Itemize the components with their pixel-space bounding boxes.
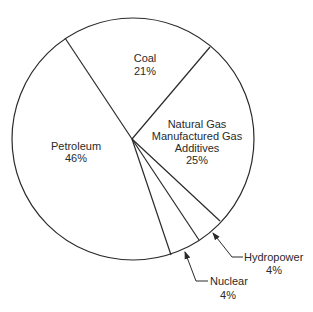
gas-value: 25%	[186, 154, 208, 166]
coal-label: Coal	[134, 52, 157, 64]
petroleum-label: Petroleum	[51, 140, 101, 152]
hydropower-label: Hydropower	[244, 251, 304, 263]
gas-label-line2: Manufactured Gas	[152, 130, 243, 142]
nuclear-callout-leader	[185, 252, 208, 281]
gas-label-line3: Additives	[175, 142, 220, 154]
nuclear-value: 4%	[220, 289, 236, 301]
coal-value: 21%	[134, 65, 156, 77]
pie-chart: Coal 21% Natural Gas Manufactured Gas Ad…	[0, 0, 313, 312]
nuclear-label: Nuclear	[210, 275, 248, 287]
gas-label-line1: Natural Gas	[168, 118, 227, 130]
hydropower-value: 4%	[266, 264, 282, 276]
hydropower-callout-leader	[213, 233, 243, 257]
pie-chart-canvas: Coal 21% Natural Gas Manufactured Gas Ad…	[0, 0, 313, 312]
petroleum-value: 46%	[65, 152, 87, 164]
